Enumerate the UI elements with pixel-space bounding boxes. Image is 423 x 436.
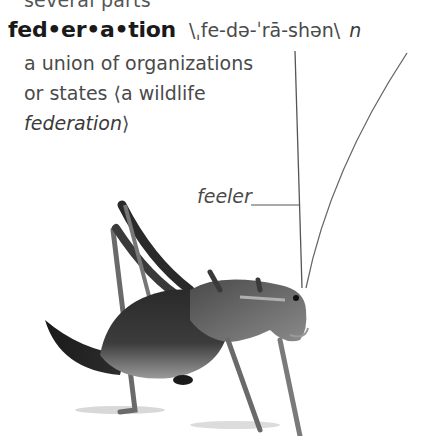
spine bbox=[258, 280, 260, 290]
antenna-left bbox=[295, 51, 302, 288]
leg-joint bbox=[173, 375, 193, 385]
front-leg bbox=[280, 340, 300, 436]
thorax bbox=[190, 280, 306, 342]
middle-leg bbox=[228, 340, 260, 430]
antenna-right bbox=[306, 53, 407, 288]
eye bbox=[293, 295, 299, 301]
shadow bbox=[190, 421, 280, 429]
hind-femur-2 bbox=[116, 228, 185, 300]
cricket-illustration bbox=[0, 0, 423, 436]
